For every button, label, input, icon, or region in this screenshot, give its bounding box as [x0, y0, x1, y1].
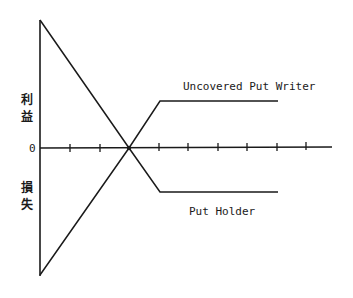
loss-label-char-1: 損 [21, 180, 34, 195]
x-axis [40, 147, 332, 148]
payoff-diagram: Uncovered Put Writer Put Holder 0 利 益 損 … [0, 0, 353, 298]
uncovered-put-writer-line [40, 101, 278, 275]
profit-label-char-2: 益 [21, 109, 33, 124]
put-holder-label: Put Holder [189, 205, 256, 218]
loss-label-char-2: 失 [21, 197, 34, 212]
breakeven-point [127, 146, 131, 150]
zero-label: 0 [29, 142, 36, 155]
put-holder-line [40, 20, 278, 192]
profit-label-char-1: 利 [21, 92, 33, 107]
uncovered-put-writer-label: Uncovered Put Writer [183, 80, 316, 93]
